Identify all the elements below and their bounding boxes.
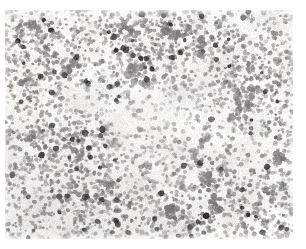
micrograph-canvas: [5, 10, 293, 239]
micrograph-page: [0, 0, 306, 249]
micrograph-image: [5, 10, 293, 239]
